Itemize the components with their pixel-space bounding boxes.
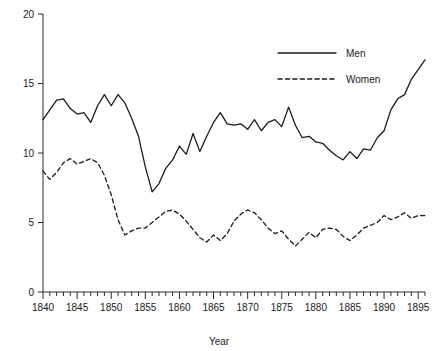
x-axis-tick-label: 1875	[271, 302, 294, 313]
x-axis-tick-label: 1870	[237, 302, 260, 313]
y-axis-tick-label: 20	[23, 9, 35, 20]
x-axis-tick-label: 1895	[407, 302, 430, 313]
x-axis-title: Year	[209, 336, 230, 347]
x-axis-tick-label: 1845	[66, 302, 89, 313]
x-axis-tick-label: 1840	[32, 302, 55, 313]
legend-group: MenWomen	[278, 48, 380, 85]
x-axis-tick-label: 1855	[134, 302, 157, 313]
line-chart: 0510152018401845185018551860186518701875…	[0, 0, 438, 351]
x-axis-tick-label: 1860	[168, 302, 191, 313]
axis-group	[38, 14, 425, 299]
chart-plot-area: 0510152018401845185018551860186518701875…	[0, 0, 438, 351]
x-axis-tick-label: 1850	[100, 302, 123, 313]
y-axis-tick-label: 10	[23, 148, 35, 159]
y-axis-tick-label: 0	[28, 287, 34, 298]
y-axis-tick-label: 5	[28, 217, 34, 228]
x-axis-tick-label: 1890	[373, 302, 396, 313]
x-axis-tick-label: 1885	[339, 302, 362, 313]
x-axis-tick-label: 1880	[305, 302, 328, 313]
tick-label-group: 0510152018401845185018551860186518701875…	[23, 9, 430, 314]
series-line-women	[43, 159, 425, 247]
y-axis-tick-label: 15	[23, 78, 35, 89]
series-group	[43, 60, 425, 246]
x-axis-tick-label: 1865	[202, 302, 225, 313]
legend-label-women: Women	[346, 74, 380, 85]
legend-label-men: Men	[346, 48, 365, 59]
